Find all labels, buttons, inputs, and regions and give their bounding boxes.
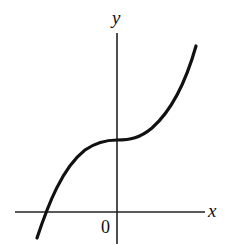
graph-figure: y x 0: [0, 0, 236, 244]
origin-label: 0: [101, 218, 110, 236]
graph-canvas: [0, 0, 236, 244]
x-axis-label: x: [208, 201, 216, 220]
y-axis-label: y: [112, 8, 120, 27]
